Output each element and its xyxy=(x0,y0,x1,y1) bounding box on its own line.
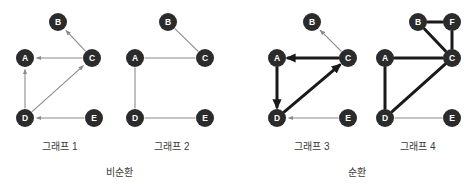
node-label: C xyxy=(449,53,455,63)
graph-node[interactable]: C xyxy=(339,49,357,67)
node-label: E xyxy=(345,113,351,123)
graph-node[interactable]: D xyxy=(16,109,34,127)
group-caption-cyclic: 순환 xyxy=(348,167,366,178)
group-caption-acyclic: 비순환 xyxy=(106,167,133,178)
graph-canvas: ABCDEABCDEABCDEABFCDE 그래프 1그래프 2그래프 3그래프… xyxy=(0,0,476,184)
graph-node[interactable]: B xyxy=(159,13,177,31)
graph-node[interactable]: F xyxy=(443,13,461,31)
node-label: D xyxy=(274,113,280,123)
graph-node[interactable]: C xyxy=(443,49,461,67)
graph-edge xyxy=(425,29,446,51)
node-label: A xyxy=(274,53,280,63)
node-label: B xyxy=(415,17,421,27)
node-label: C xyxy=(345,53,351,63)
node-label: E xyxy=(202,113,208,123)
graph-node[interactable]: E xyxy=(443,109,461,127)
node-label: C xyxy=(202,53,208,63)
node-label: E xyxy=(449,113,455,123)
graph-caption: 그래프 4 xyxy=(400,141,436,152)
node-label: A xyxy=(132,53,138,63)
node-label: A xyxy=(382,53,388,63)
graph-caption: 그래프 1 xyxy=(42,141,78,152)
node-label: E xyxy=(91,113,97,123)
graph-node[interactable]: B xyxy=(49,13,67,31)
graph-node[interactable]: B xyxy=(303,13,321,31)
graph-figure: ABCDEABCDEABCDEABFCDE 그래프 1그래프 2그래프 3그래프… xyxy=(0,0,476,184)
node-label: A xyxy=(22,53,28,63)
graph-node[interactable]: B xyxy=(409,13,427,31)
caption-layer: 그래프 1그래프 2그래프 3그래프 4비순환순환 xyxy=(42,141,436,178)
graph-node[interactable]: D xyxy=(126,109,144,127)
graph-node[interactable]: A xyxy=(268,49,286,67)
node-label: C xyxy=(89,53,95,63)
node-label: B xyxy=(309,17,315,27)
graph-caption: 그래프 3 xyxy=(294,141,330,152)
graph-node[interactable]: E xyxy=(196,109,214,127)
node-label: F xyxy=(449,17,454,27)
graph-node[interactable]: C xyxy=(83,49,101,67)
graph-node[interactable]: D xyxy=(268,109,286,127)
graph-edge xyxy=(66,30,86,51)
graph-edge xyxy=(284,65,339,112)
node-label: D xyxy=(382,113,388,123)
node-label: D xyxy=(22,113,28,123)
graph-edge xyxy=(32,66,83,112)
graph-node[interactable]: C xyxy=(196,49,214,67)
graph-caption: 그래프 2 xyxy=(154,141,190,152)
node-label: D xyxy=(132,113,138,123)
edge-layer xyxy=(25,22,452,118)
graph-node[interactable]: E xyxy=(339,109,357,127)
graph-node[interactable]: A xyxy=(376,49,394,67)
graph-node[interactable]: D xyxy=(376,109,394,127)
graph-edge xyxy=(175,29,198,52)
graph-node[interactable]: A xyxy=(16,49,34,67)
graph-edge xyxy=(392,64,445,111)
node-label: B xyxy=(55,17,61,27)
graph-edge xyxy=(320,30,341,51)
graph-node[interactable]: E xyxy=(85,109,103,127)
graph-node[interactable]: A xyxy=(126,49,144,67)
node-label: B xyxy=(165,17,171,27)
